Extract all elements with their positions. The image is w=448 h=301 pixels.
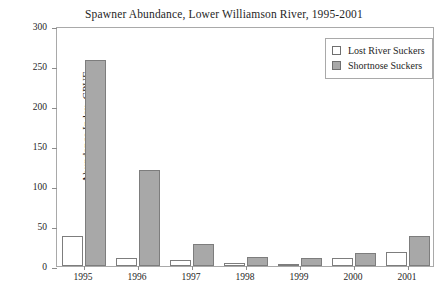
bar-1998-lost-river-suckers — [224, 263, 245, 266]
x-tick-label-2001: 2001 — [377, 272, 437, 282]
bar-1999-lost-river-suckers — [278, 264, 299, 266]
y-tick-label: 0 — [11, 262, 47, 272]
x-tick-mark — [84, 266, 85, 270]
y-tick-mark — [52, 268, 57, 269]
legend-item-shortnose-suckers: Shortnose Suckers — [332, 58, 425, 73]
x-tick-label-1996: 1996 — [107, 272, 167, 282]
x-tick-mark — [354, 266, 355, 270]
y-tick-label: 300 — [11, 22, 47, 32]
legend-swatch-icon — [332, 61, 341, 70]
y-tick-mark — [52, 108, 57, 109]
bar-2000-shortnose-suckers — [355, 253, 376, 266]
x-tick-mark — [138, 266, 139, 270]
legend-label: Lost River Suckers — [348, 46, 425, 56]
bar-1995-shortnose-suckers — [85, 60, 106, 266]
y-tick-label: 250 — [11, 62, 47, 72]
bar-1995-lost-river-suckers — [62, 236, 83, 266]
x-tick-mark — [300, 266, 301, 270]
chart-legend: Lost River SuckersShortnose Suckers — [325, 38, 433, 79]
bar-2001-lost-river-suckers — [386, 252, 407, 266]
x-tick-label-1997: 1997 — [161, 272, 221, 282]
legend-item-lost-river-suckers: Lost River Suckers — [332, 43, 425, 58]
x-tick-label-1999: 1999 — [269, 272, 329, 282]
bar-1997-lost-river-suckers — [170, 260, 191, 266]
x-tick-label-1995: 1995 — [53, 272, 113, 282]
x-tick-label-1998: 1998 — [215, 272, 275, 282]
y-tick-label: 50 — [11, 222, 47, 232]
bar-1998-shortnose-suckers — [247, 257, 268, 266]
bar-1997-shortnose-suckers — [193, 244, 214, 266]
y-tick-mark — [52, 188, 57, 189]
legend-label: Shortnose Suckers — [348, 61, 422, 71]
y-tick-mark — [52, 68, 57, 69]
x-tick-mark — [246, 266, 247, 270]
bar-1996-lost-river-suckers — [116, 258, 137, 266]
y-tick-mark — [52, 28, 57, 29]
chart-title: Spawner Abundance, Lower Williamson Rive… — [0, 8, 448, 20]
y-tick-mark — [52, 228, 57, 229]
y-tick-label: 200 — [11, 102, 47, 112]
bar-1999-shortnose-suckers — [301, 258, 322, 266]
x-tick-mark — [192, 266, 193, 270]
bar-2001-shortnose-suckers — [409, 236, 430, 266]
x-tick-mark — [408, 266, 409, 270]
y-tick-label: 100 — [11, 182, 47, 192]
bar-2000-lost-river-suckers — [332, 258, 353, 266]
legend-swatch-icon — [332, 46, 341, 55]
bar-1996-shortnose-suckers — [139, 170, 160, 266]
y-tick-label: 150 — [11, 142, 47, 152]
x-tick-label-2000: 2000 — [323, 272, 383, 282]
y-tick-mark — [52, 148, 57, 149]
